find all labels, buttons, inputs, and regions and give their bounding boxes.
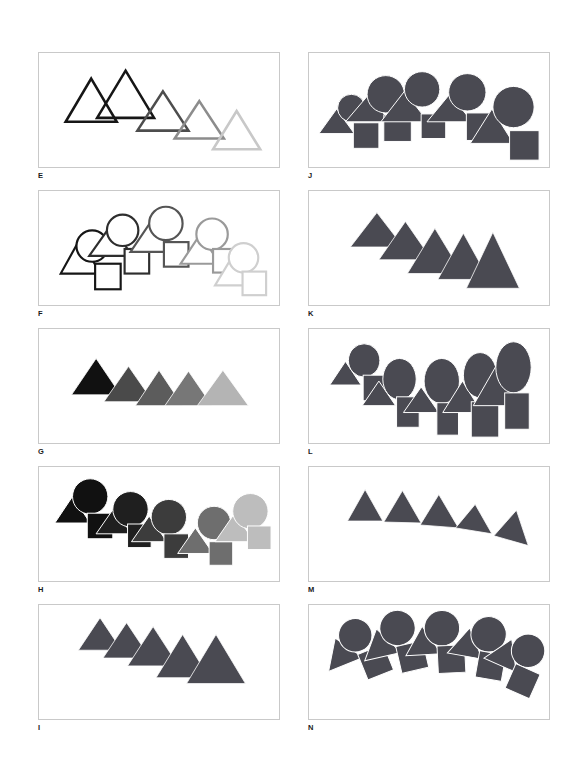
panel-label-i: I — [38, 724, 40, 732]
panel-label-m: M — [308, 586, 314, 594]
panel-l[interactable] — [308, 328, 550, 444]
square-4 — [209, 542, 233, 566]
square-1 — [353, 123, 379, 149]
triangle-2 — [384, 491, 421, 523]
panel-cell-j: J — [308, 52, 550, 190]
panel-n[interactable] — [308, 604, 550, 720]
triangle-4 — [456, 504, 492, 533]
panel-label-l: L — [308, 448, 313, 456]
ellipse-2 — [383, 358, 416, 399]
panel-f-canvas — [39, 191, 279, 305]
square-5 — [247, 526, 271, 550]
panel-cell-i: I — [38, 604, 280, 742]
panel-label-k: K — [308, 310, 314, 318]
triangle-outline-3 — [137, 91, 188, 130]
panel-cell-m: M — [308, 466, 550, 604]
triangle-outline-2 — [97, 71, 154, 118]
panel-h-canvas — [39, 467, 279, 581]
panel-e-canvas — [39, 53, 279, 167]
panel-n-canvas — [309, 605, 549, 719]
panel-k[interactable] — [308, 190, 550, 306]
circle-3 — [151, 499, 186, 534]
panel-g[interactable] — [38, 328, 280, 444]
circle-outline-2 — [107, 215, 138, 246]
panel-label-j: J — [308, 172, 312, 180]
panel-label-e: E — [38, 172, 43, 180]
panel-cell-n: N — [308, 604, 550, 742]
panel-m[interactable] — [308, 466, 550, 582]
panel-grid: E — [38, 52, 550, 742]
circle-5 — [493, 86, 534, 127]
panel-l-canvas — [309, 329, 549, 443]
square-outline-5 — [243, 272, 267, 296]
panel-j-canvas — [309, 53, 549, 167]
triangle-5 — [197, 370, 248, 405]
rectangle-4 — [471, 402, 499, 437]
panel-k-canvas — [309, 191, 549, 305]
circle-outline-5 — [229, 243, 258, 272]
panel-h[interactable] — [38, 466, 280, 582]
figure-sheet: E — [0, 0, 580, 759]
panel-i-canvas — [39, 605, 279, 719]
circle-2 — [113, 492, 148, 527]
panel-e[interactable] — [38, 52, 280, 168]
square-outline-1 — [95, 264, 121, 290]
panel-f[interactable] — [38, 190, 280, 306]
panel-cell-e: E — [38, 52, 280, 190]
circle-outline-3 — [149, 207, 182, 240]
panel-cell-f: F — [38, 190, 280, 328]
panel-label-g: G — [38, 448, 44, 456]
panel-label-f: F — [38, 310, 43, 318]
circle-3 — [404, 72, 439, 107]
panel-cell-l: L — [308, 328, 550, 466]
ellipse-1 — [348, 344, 379, 377]
panel-g-canvas — [39, 329, 279, 443]
square-5 — [510, 131, 539, 160]
circle-4 — [449, 74, 486, 111]
triangle-outline-5 — [213, 111, 260, 149]
circle-1 — [73, 479, 108, 514]
panel-cell-h: H — [38, 466, 280, 604]
panel-cell-g: G — [38, 328, 280, 466]
rectangle-5 — [505, 393, 530, 429]
panel-i[interactable] — [38, 604, 280, 720]
panel-j[interactable] — [308, 52, 550, 168]
panel-cell-k: K — [308, 190, 550, 328]
circle-5 — [233, 494, 268, 529]
panel-label-h: H — [38, 586, 44, 594]
triangle-5 — [494, 510, 528, 545]
panel-label-n: N — [308, 724, 314, 732]
triangle-1 — [347, 490, 382, 521]
panel-m-canvas — [309, 467, 549, 581]
ellipse-5 — [496, 342, 531, 393]
circle-outline-4 — [196, 219, 227, 250]
triangle-3 — [420, 495, 458, 528]
